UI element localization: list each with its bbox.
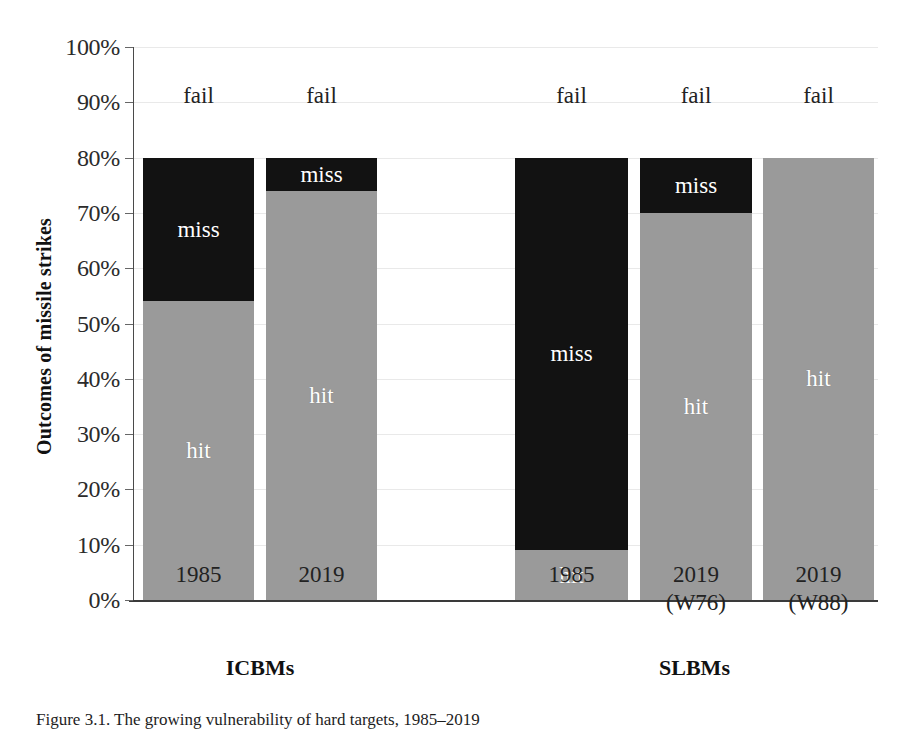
tick-mark [125,489,133,490]
x-axis-tick-year: 1985 [549,562,595,587]
bar-stack[interactable]: hitmiss [143,158,254,600]
y-axis-tick-label: 80% [77,144,120,171]
y-axis-title: Outcomes of missile strikes [33,127,56,547]
bar-segment-label-fail: fail [640,83,752,109]
plot-area: 0%10%20%30%40%50%60%70%80%90%100% hitmis… [133,47,878,600]
bar-segment-label-miss: miss [300,163,342,186]
y-axis-tick-label: 40% [77,365,120,392]
tick-mark [125,600,133,601]
tick-mark [125,545,133,546]
bar-segment-hit[interactable]: hit [143,301,254,600]
bar-segment-label-fail: fail [143,83,254,109]
x-axis-tick-label: 2019 [266,561,377,589]
bar-segment-hit[interactable]: hit [640,213,752,600]
bar-segment-label-fail: fail [266,83,377,109]
tick-mark [125,47,133,48]
bar-segment-label-hit: hit [684,395,708,418]
bar-segment-hit[interactable]: hit [266,191,377,600]
tick-mark [125,158,133,159]
tick-mark [125,324,133,325]
bar-segment-label-fail: fail [515,83,628,109]
x-axis-tick-year: 2019 [796,562,842,587]
x-axis-tick-label: 1985 [143,561,254,589]
y-axis-tick-label: 90% [77,89,120,116]
x-axis-tick-year: 1985 [176,562,222,587]
figure-container: Outcomes of missile strikes 0%10%20%30%4… [0,0,909,741]
y-axis-tick-label: 50% [77,310,120,337]
x-axis-tick-label: 1985 [515,561,628,589]
y-axis-tick-label: 70% [77,199,120,226]
bar-segment-miss[interactable]: miss [515,158,628,551]
bar-segment-label-fail: fail [763,83,874,109]
figure-caption: Figure 3.1. The growing vulnerability of… [36,710,480,730]
x-axis-tick-label: 2019(W76) [640,561,752,617]
tick-mark [125,213,133,214]
group-label: SLBMs [515,655,874,681]
y-axis-tick-label: 20% [77,476,120,503]
tick-mark [125,102,133,103]
bar-stack[interactable]: hitmiss [640,158,752,600]
bar-segment-label-hit: hit [309,384,333,407]
bar-segment-hit[interactable]: hit [763,158,874,600]
x-axis-tick-year: 2019 [673,562,719,587]
x-axis-tick-year: 2019 [299,562,345,587]
bar-segment-miss[interactable]: miss [266,158,377,191]
y-axis-tick-label: 100% [65,34,120,61]
y-axis-tick-label: 0% [89,587,120,614]
bar-segment-label-miss: miss [177,218,219,241]
bar-segment-miss[interactable]: miss [640,158,752,213]
bar-segment-label-hit: hit [186,439,210,462]
bar-segment-label-miss: miss [675,174,717,197]
gridline [134,47,878,48]
bar-segment-label-hit: hit [806,367,830,390]
y-axis-tick-label: 60% [77,255,120,282]
y-axis-tick-label: 30% [77,421,120,448]
x-axis-tick-variant: (W76) [640,589,752,617]
bar-stack[interactable]: hitmiss [266,158,377,600]
bar-stack[interactable]: hit [763,158,874,600]
tick-mark [125,379,133,380]
bar-segment-label-miss: miss [550,342,592,365]
y-axis-tick-label: 10% [77,531,120,558]
tick-mark [125,268,133,269]
bar-stack[interactable]: hitmiss [515,158,628,600]
x-axis-tick-label: 2019(W88) [763,561,874,617]
tick-mark [125,434,133,435]
bar-segment-miss[interactable]: miss [143,158,254,302]
x-axis-tick-variant: (W88) [763,589,874,617]
group-label: ICBMs [143,655,377,681]
